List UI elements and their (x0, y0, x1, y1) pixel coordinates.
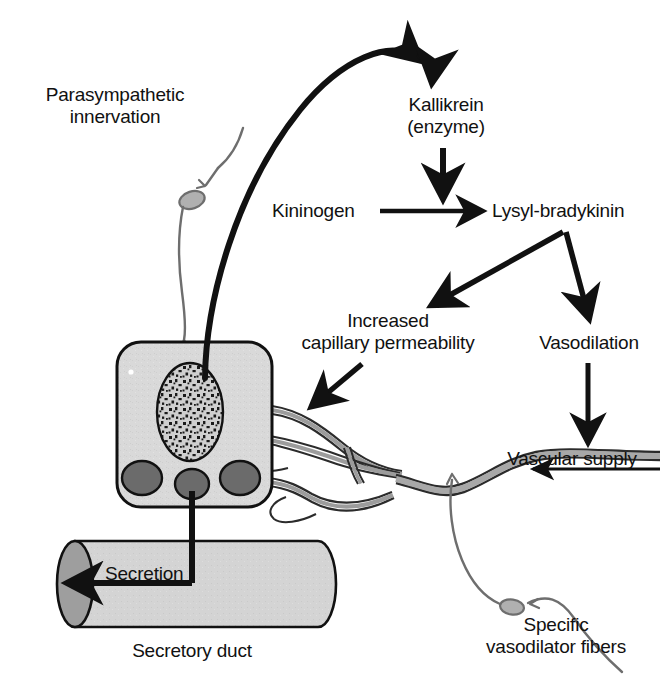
label-kallikrein: Kallikrein (enzyme) (376, 94, 516, 138)
label-parasympathetic-innervation: Parasympathetic innervation (20, 84, 210, 128)
label-lysyl-bradykinin: Lysyl-bradykinin (492, 200, 624, 222)
diagram-canvas: Parasympathetic innervation Kallikrein (… (0, 0, 670, 684)
arrow-lysyl-to-permeability (432, 232, 563, 305)
label-secretory-duct: Secretory duct (72, 640, 312, 662)
label-vascular-supply: Vascular supply (487, 448, 657, 470)
cell-nucleus (157, 363, 223, 461)
acinar-cell (117, 342, 272, 507)
arrow-lysyl-to-vasodilation (566, 232, 589, 318)
label-specific-vasodilator-fibers: Specific vasodilator fibers (456, 614, 656, 658)
arrow-permeability-to-capillary (312, 364, 362, 406)
label-secretion: Secretion (105, 563, 183, 585)
label-kininogen: Kininogen (272, 200, 355, 222)
label-vasodilation: Vasodilation (519, 332, 659, 354)
label-increased-capillary-permeability: Increased capillary permeability (288, 310, 488, 354)
